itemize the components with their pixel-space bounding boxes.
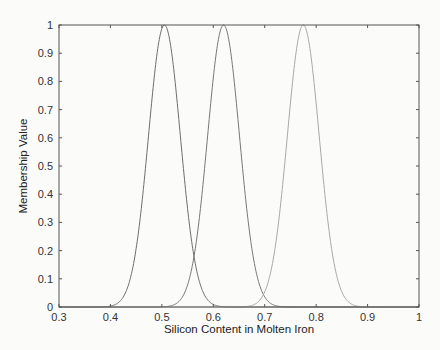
membership-curve-1 — [59, 25, 419, 307]
membership-function-chart: 0.30.40.50.60.70.80.91 00.10.20.30.40.50… — [0, 0, 440, 350]
y-tick-label: 0.9 — [38, 47, 53, 59]
x-tick-label: 0.3 — [51, 311, 66, 323]
x-tick-label: 0.8 — [308, 311, 323, 323]
x-tick-label: 0.4 — [103, 311, 118, 323]
x-axis-label: Silicon Content in Molten Iron — [164, 323, 314, 335]
y-tick-label: 1 — [47, 19, 53, 31]
y-tick-label: 0 — [47, 301, 53, 313]
x-tick-label: 0.5 — [154, 311, 169, 323]
y-tick-label: 0.2 — [38, 245, 53, 257]
x-tick-label: 0.6 — [206, 311, 221, 323]
y-axis-ticks: 00.10.20.30.40.50.60.70.80.91 — [38, 19, 419, 313]
membership-curve-3 — [59, 25, 419, 307]
y-tick-label: 0.7 — [38, 104, 53, 116]
membership-curve-2 — [59, 25, 419, 307]
plot-frame — [59, 25, 419, 307]
x-tick-label: 1 — [416, 311, 422, 323]
membership-curves — [59, 25, 419, 307]
y-tick-label: 0.3 — [38, 216, 53, 228]
y-tick-label: 0.8 — [38, 75, 53, 87]
y-tick-label: 0.5 — [38, 160, 53, 172]
x-tick-label: 0.7 — [257, 311, 272, 323]
x-axis-ticks: 0.30.40.50.60.70.80.91 — [51, 25, 422, 323]
x-tick-label: 0.9 — [360, 311, 375, 323]
y-tick-label: 0.1 — [38, 273, 53, 285]
y-tick-label: 0.4 — [38, 188, 53, 200]
y-axis-label: Membership Value — [17, 118, 29, 213]
y-tick-label: 0.6 — [38, 132, 53, 144]
